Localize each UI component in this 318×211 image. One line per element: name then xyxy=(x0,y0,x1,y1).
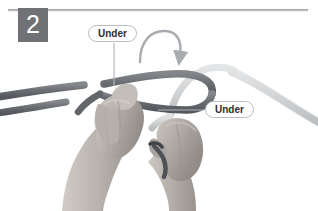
instruction-figure-step: 2 Under Under xyxy=(0,0,318,211)
callout-under-top-label: Under xyxy=(98,29,127,39)
step-number-badge: 2 xyxy=(18,8,48,42)
callout-under-right-label: Under xyxy=(215,105,244,115)
top-divider-rule xyxy=(8,9,308,11)
callout-under-right: Under xyxy=(205,101,254,118)
step-number-label: 2 xyxy=(26,12,40,39)
callout-under-top: Under xyxy=(88,25,137,42)
